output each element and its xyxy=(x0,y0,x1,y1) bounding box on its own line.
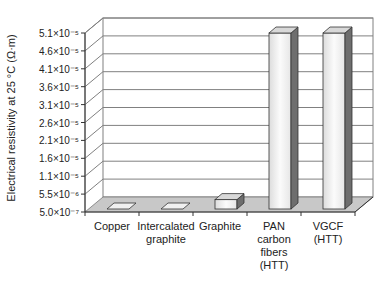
x-tick-label: Graphite xyxy=(199,220,241,232)
y-tick-label: 3.1×10⁻⁵ xyxy=(39,100,79,111)
x-tick-label: PANcarbonfibers(HTT) xyxy=(257,220,291,271)
y-tick-label: 5.1×10⁻⁵ xyxy=(39,28,79,39)
y-tick-label: 2.6×10⁻⁵ xyxy=(39,118,79,129)
y-tick-label: 5.0×10⁻⁷ xyxy=(40,207,80,218)
y-tick-label: 3.6×10⁻⁵ xyxy=(39,82,79,93)
y-tick-label: 1.1×10⁻⁵ xyxy=(39,171,79,182)
bar-vgcf-htt- xyxy=(323,27,352,209)
y-tick-label: 1.6×10⁻⁵ xyxy=(39,153,79,164)
y-tick-label: 5.5×10⁻⁶ xyxy=(39,189,79,200)
bar-graphite xyxy=(215,194,244,209)
x-tick-label: Copper xyxy=(94,220,130,232)
bar-pan-carbon-fibers-htt- xyxy=(269,27,298,209)
y-tick-label: 2.1×10⁻⁵ xyxy=(39,135,79,146)
y-tick-label: 4.1×10⁻⁵ xyxy=(39,64,79,75)
y-axis-label: Electrical resistivity at 25 °C (Ω·m) xyxy=(5,34,17,201)
x-tick-label: VGCF(HTT) xyxy=(313,220,344,245)
x-tick-label: Intercalatedgraphite xyxy=(137,220,194,245)
y-axis: 5.0×10⁻⁷5.5×10⁻⁶1.1×10⁻⁵1.6×10⁻⁵2.1×10⁻⁵… xyxy=(39,28,85,218)
y-tick-label: 4.6×10⁻⁵ xyxy=(39,46,79,57)
bar-chart: 5.0×10⁻⁷5.5×10⁻⁶1.1×10⁻⁵1.6×10⁻⁵2.1×10⁻⁵… xyxy=(0,0,389,287)
